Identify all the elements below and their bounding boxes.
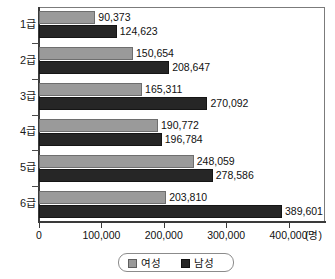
legend: 여성 남성 [118, 253, 234, 272]
x-axis-tick [289, 223, 290, 228]
x-axis-tick-label: 100,000 [82, 230, 120, 241]
bar-여성-5급 [39, 155, 194, 168]
y-axis-tick [32, 79, 39, 80]
bar-여성-4급 [39, 119, 158, 132]
x-axis-tick-label: 200,000 [145, 230, 183, 241]
bar-남성-1급 [39, 25, 117, 38]
bar-여성-1급 [39, 11, 95, 24]
value-label-여성-5급: 248,059 [197, 156, 235, 167]
value-label-남성-5급: 278,586 [216, 170, 254, 181]
value-label-남성-4급: 196,784 [165, 134, 203, 145]
chart-title-clipped [40, 0, 302, 6]
bar-남성-3급 [39, 97, 207, 110]
y-axis-label-6급: 6급 [4, 198, 36, 209]
y-axis-label-4급: 4급 [4, 126, 36, 137]
x-axis-line [38, 221, 326, 223]
bar-남성-5급 [39, 169, 213, 182]
legend-swatch-female-icon [128, 259, 137, 268]
x-axis-tick-label: 0 [36, 230, 42, 241]
bar-남성-4급 [39, 133, 162, 146]
bar-chart: 1급2급3급4급5급6급 90,373124,623150,654208,647… [0, 0, 335, 279]
x-axis-tick-label: 400,000 [270, 230, 308, 241]
legend-item-male: 남성 [181, 257, 214, 269]
x-axis-tick [39, 223, 40, 228]
y-axis-label-3급: 3급 [4, 91, 36, 102]
legend-item-female: 여성 [128, 257, 161, 269]
x-axis-unit-label: (명) [305, 230, 322, 241]
value-label-남성-2급: 208,647 [172, 62, 210, 73]
y-axis-tick [32, 115, 39, 116]
y-axis-label-2급: 2급 [4, 55, 36, 66]
y-axis-label-5급: 5급 [4, 162, 36, 173]
legend-label-female: 여성 [141, 257, 161, 269]
value-label-남성-1급: 124,623 [120, 26, 158, 37]
value-label-여성-2급: 150,654 [136, 48, 174, 59]
value-label-남성-3급: 270,092 [210, 98, 248, 109]
legend-swatch-male-icon [181, 259, 190, 268]
bar-여성-3급 [39, 83, 142, 96]
bar-남성-2급 [39, 61, 169, 74]
x-axis-tick-label: 300,000 [207, 230, 245, 241]
x-axis-tick [164, 223, 165, 228]
y-axis-tick [32, 43, 39, 44]
value-label-여성-1급: 90,373 [98, 12, 130, 23]
x-axis-tick [101, 223, 102, 228]
y-axis-tick [32, 150, 39, 151]
value-label-여성-6급: 203,810 [169, 192, 207, 203]
legend-label-male: 남성 [194, 257, 214, 269]
bar-여성-2급 [39, 47, 133, 60]
y-axis-label-1급: 1급 [4, 19, 36, 30]
value-label-여성-3급: 165,311 [145, 84, 182, 95]
value-label-여성-4급: 190,772 [161, 120, 199, 131]
bar-남성-6급 [39, 205, 282, 218]
y-axis-tick [32, 186, 39, 187]
value-label-남성-6급: 389,601 [285, 206, 323, 217]
x-axis-tick [226, 223, 227, 228]
bar-여성-6급 [39, 191, 166, 204]
